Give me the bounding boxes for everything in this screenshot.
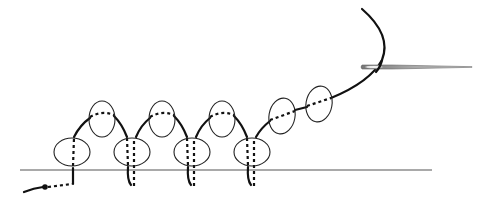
top-beads [89, 84, 335, 137]
bead [209, 101, 235, 137]
bead [174, 138, 210, 166]
bottom-beads [54, 138, 270, 166]
bead [234, 138, 270, 166]
bead [114, 138, 150, 166]
bead [54, 138, 90, 166]
beading-diagram [0, 0, 477, 207]
knot-icon [42, 184, 48, 190]
bead [89, 101, 115, 137]
bead [303, 84, 335, 124]
needle-icon [361, 60, 472, 72]
bead [149, 101, 175, 137]
thread-path [73, 9, 385, 186]
thread-start [24, 168, 73, 192]
